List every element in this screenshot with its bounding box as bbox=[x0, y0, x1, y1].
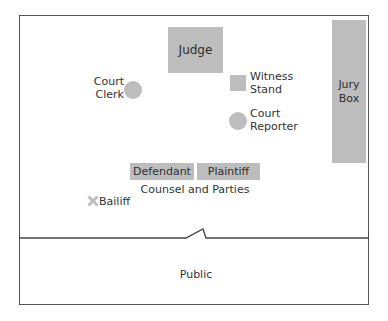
bailiff-label: Bailiff bbox=[99, 195, 130, 208]
judge-label: Judge bbox=[179, 43, 213, 57]
jury-box: Jury Box bbox=[332, 20, 366, 163]
court-reporter-seat bbox=[229, 112, 247, 130]
defendant-table: Defendant bbox=[130, 163, 194, 180]
judge-bench: Judge bbox=[168, 27, 223, 73]
court-reporter-label-line1: Court bbox=[250, 107, 298, 120]
court-clerk-seat bbox=[124, 81, 142, 99]
counsel-and-parties-label: Counsel and Parties bbox=[130, 183, 260, 196]
court-clerk-label-line1: Court bbox=[92, 75, 124, 88]
witness-stand-label: Witness Stand bbox=[250, 70, 293, 96]
jury-box-label-line2: Box bbox=[339, 92, 359, 106]
court-reporter-label: Court Reporter bbox=[250, 107, 298, 133]
plaintiff-label: Plaintiff bbox=[208, 165, 249, 178]
bailiff-x-icon bbox=[87, 195, 99, 207]
court-clerk-label-line2: Clerk bbox=[92, 88, 124, 101]
court-reporter-label-line2: Reporter bbox=[250, 120, 298, 133]
witness-stand-label-line1: Witness bbox=[250, 70, 293, 83]
jury-box-label-line1: Jury bbox=[338, 78, 359, 92]
court-clerk-label: Court Clerk bbox=[92, 75, 124, 101]
public-area-label: Public bbox=[150, 268, 242, 281]
witness-stand-label-line2: Stand bbox=[250, 83, 293, 96]
plaintiff-table: Plaintiff bbox=[197, 163, 260, 180]
witness-stand bbox=[230, 75, 246, 91]
defendant-label: Defendant bbox=[133, 165, 191, 178]
